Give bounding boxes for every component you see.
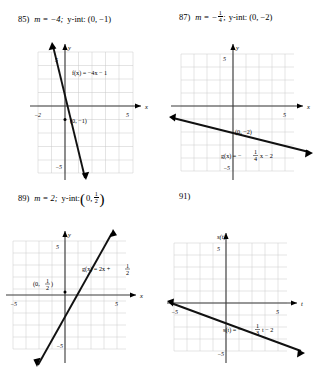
problem-87-number: 87) — [179, 12, 190, 22]
y-tick-5: 5 — [56, 244, 59, 250]
equation-numerator: 1 — [126, 262, 129, 269]
equation-prefix: s(t) = − — [223, 326, 242, 334]
x-axis-label: t — [301, 300, 303, 307]
fraction-denominator: 2 — [94, 197, 99, 204]
problem-91: 91) — [161, 185, 322, 370]
problem-85: 85) m = −4; y-int: (0, −1) — [0, 0, 161, 185]
problem-85-yint: y-int: (0, −1) — [67, 14, 111, 24]
grid-lines — [174, 243, 287, 351]
x-tick-5: 5 — [115, 301, 118, 307]
problem-89-yint-prefix: y-int: — [62, 193, 80, 203]
point-close: ) — [51, 280, 53, 288]
axes — [167, 233, 297, 363]
problem-87-slope-fraction: 1 4 — [218, 10, 223, 23]
point-open: (0, — [33, 280, 40, 288]
y-axis-label: y — [67, 231, 71, 238]
problem-85-graph: x y 5 −5 −2 5 (0, −1) f(x) = −4x − 1 — [0, 30, 161, 180]
answer-key-page: 85) m = −4; y-int: (0, −1) — [0, 0, 322, 370]
y-axis-label: s(t) — [217, 233, 226, 241]
x-tick-neg5: −5 — [171, 309, 178, 315]
problem-91-graph: t s(t) 5 −5 −5 5 s(t) = − 1 3 t − 2 — [161, 217, 322, 367]
equation-suffix: t − 2 — [262, 326, 273, 333]
problem-89: 89) m = 2; y-int: ( 0, 1 2 ) — [0, 185, 161, 370]
problem-91-header: 91) — [161, 191, 322, 201]
x-tick-5: 5 — [283, 112, 286, 118]
point-numerator: 1 — [46, 277, 49, 284]
equation-numerator: 1 — [256, 322, 259, 329]
equation-denominator: 3 — [256, 329, 259, 336]
y-axis-label: y — [67, 44, 71, 51]
equation-suffix: x − 2 — [260, 152, 273, 159]
problem-89-header: 89) m = 2; y-int: ( 0, 1 2 ) — [0, 191, 161, 204]
equation-label-85: f(x) = −4x − 1 — [72, 69, 107, 77]
problem-89-graph: x y 5 −5 −5 5 (0, 1 2 ) g(x) = 2x + 1 2 — [0, 217, 161, 367]
problem-89-slope: m = 2; — [34, 193, 57, 203]
x-tick-5: 5 — [126, 112, 129, 118]
problem-87-slope-suffix: ; — [223, 12, 225, 22]
problem-85-slope: m = −4; — [34, 14, 63, 24]
y-tick-neg5: −5 — [56, 343, 63, 349]
y-axis-label: y — [235, 44, 239, 51]
point-label-89: (0, 1 2 ) — [33, 277, 53, 291]
problem-87-graph: x y 5 −5 5 (0, −2) g(x) = − 1 4 x − 2 — [161, 30, 322, 180]
problem-89-number: 89) — [18, 193, 29, 203]
plot-line-87 — [169, 114, 313, 158]
problem-91-number: 91) — [179, 191, 190, 201]
x-tick-neg5: −5 — [10, 301, 17, 307]
axes — [30, 44, 141, 180]
intercept-dot — [64, 118, 67, 121]
y-tick-neg5: −5 — [223, 165, 230, 171]
y-tick-5: 5 — [223, 56, 226, 62]
y-tick-neg5: −5 — [55, 164, 62, 170]
problem-87-header: 87) m = − 1 4 ; y-int: (0, −2) — [161, 10, 322, 23]
equation-label-87: g(x) = − 1 4 x − 2 — [221, 148, 273, 162]
x-tick-5: 5 — [276, 309, 279, 315]
equation-denominator: 4 — [254, 155, 257, 162]
fraction-denominator: 4 — [218, 16, 223, 23]
y-tick-neg5: −5 — [217, 351, 224, 357]
point-label-87: (0, −2) — [235, 128, 252, 136]
equation-prefix: g(x) = 2x + — [82, 265, 111, 273]
problem-87-yint: y-int: (0, −2) — [229, 12, 273, 22]
point-label-85: (0, −1) — [70, 117, 87, 125]
intercept-dot — [64, 291, 67, 294]
problem-87-slope-prefix: m = − — [195, 12, 217, 22]
problem-85-number: 85) — [18, 14, 29, 24]
equation-numerator: 1 — [254, 148, 257, 155]
problem-89-yint-fraction: 1 2 — [94, 191, 99, 204]
axes — [6, 231, 136, 363]
y-tick-5: 5 — [55, 57, 58, 63]
plot-line-89 — [33, 229, 117, 367]
problem-89-yint-x: 0, — [86, 193, 92, 203]
x-axis-label: x — [139, 292, 143, 299]
x-tick-neg2: −2 — [34, 112, 41, 118]
problem-87: 87) m = − 1 4 ; y-int: (0, −2) — [161, 0, 322, 185]
equation-denominator: 2 — [126, 269, 129, 276]
x-axis-label: x — [306, 103, 310, 110]
point-denominator: 2 — [46, 284, 49, 291]
equation-prefix: g(x) = − — [221, 152, 242, 160]
y-tick-5: 5 — [217, 246, 220, 252]
x-axis-label: x — [144, 103, 148, 110]
problem-85-header: 85) m = −4; y-int: (0, −1) — [0, 14, 161, 24]
